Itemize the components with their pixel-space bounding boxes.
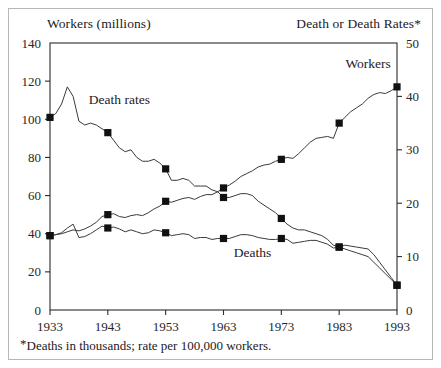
y-axis-tick-label: 40 xyxy=(28,226,41,241)
x-axis-tick-label: 1953 xyxy=(153,319,179,334)
series-data-marker xyxy=(393,83,400,90)
footnote: *Deaths in thousands; rate per 100,000 w… xyxy=(20,336,271,354)
series-data-marker xyxy=(278,235,285,242)
series-data-marker xyxy=(162,165,169,172)
x-axis-tick-label: 1973 xyxy=(268,319,294,334)
y2-axis-tick-label: 20 xyxy=(406,196,419,211)
y-axis-tick-label: 60 xyxy=(28,188,41,203)
series-data-marker xyxy=(220,194,227,201)
series-data-marker xyxy=(46,232,53,239)
x-axis-tick-label: 1963 xyxy=(211,319,237,334)
series-data-marker xyxy=(104,129,111,136)
y-axis-tick-label: 0 xyxy=(35,303,42,318)
series-annotation-label: Deaths xyxy=(234,245,272,260)
x-axis-tick-label: 1933 xyxy=(37,319,63,334)
y2-axis-tick-label: 10 xyxy=(406,249,419,264)
series-data-marker xyxy=(278,215,285,222)
series-data-marker xyxy=(220,235,227,242)
x-axis-tick-label: 1993 xyxy=(384,319,410,334)
series-line xyxy=(50,87,397,236)
y2-axis-tick-label: 30 xyxy=(406,142,419,157)
y-axis-tick-label: 80 xyxy=(28,150,41,165)
series-data-marker xyxy=(336,243,343,250)
y-axis-tick-label: 100 xyxy=(22,112,42,127)
series-annotation-label: Workers xyxy=(345,56,390,71)
annotation-layer: Death ratesWorkersDeaths xyxy=(89,56,391,260)
line-chart-plot: 0204060801001201400102030405019331943195… xyxy=(0,0,441,368)
series-annotation-label: Death rates xyxy=(89,92,150,107)
y2-axis-tick-label: 40 xyxy=(406,89,419,104)
series-data-marker xyxy=(336,120,343,127)
series-data-marker xyxy=(162,198,169,205)
y-axis-tick-label: 140 xyxy=(22,36,42,51)
series-data-marker xyxy=(104,224,111,231)
series-data-marker xyxy=(278,156,285,163)
figure-container: Workers (millions) Death or Death Rates*… xyxy=(0,0,441,368)
series-data-marker xyxy=(104,211,111,218)
y-axis-tick-label: 120 xyxy=(22,74,42,89)
series-line xyxy=(50,224,397,285)
x-axis-tick-label: 1943 xyxy=(95,319,121,334)
x-axis-tick-label: 1983 xyxy=(326,319,352,334)
y2-axis-tick-label: 50 xyxy=(406,36,419,51)
y2-axis-tick-label: 0 xyxy=(406,303,413,318)
series-data-marker xyxy=(162,229,169,236)
series-data-marker xyxy=(220,184,227,191)
series-layer xyxy=(46,83,400,289)
series-data-marker xyxy=(393,282,400,289)
y-axis-tick-label: 20 xyxy=(28,264,41,279)
footnote-text: Deaths in thousands; rate per 100,000 wo… xyxy=(27,338,272,353)
series-data-marker xyxy=(46,114,53,121)
